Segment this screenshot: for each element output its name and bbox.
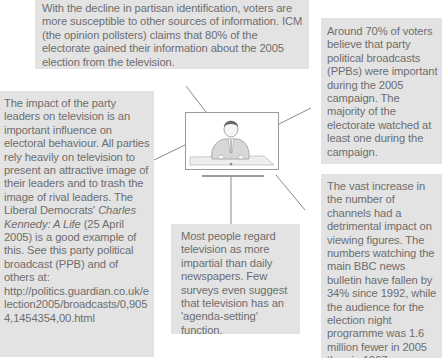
info-box-ppb-importance: Around 70% of voters believe that party … (321, 18, 442, 164)
info-text: Most people regard television as more im… (181, 230, 296, 337)
info-box-party-leaders: The impact of the party leaders on telev… (0, 91, 154, 357)
info-text: With the decline in partisan identificat… (42, 2, 303, 69)
tv-stand (200, 170, 266, 180)
info-box-channel-increase: The vast increase in the number of chann… (321, 174, 442, 358)
url-link[interactable]: http://politics.guardian.co.uk/election2… (4, 285, 149, 324)
info-text: The impact of the party leaders on telev… (4, 97, 150, 325)
info-text-part: The impact of the party leaders on telev… (4, 97, 149, 216)
presenter-illustration (186, 113, 277, 168)
television-presenter-icon (185, 112, 279, 170)
info-text: The vast increase in the number of chann… (327, 180, 438, 358)
info-box-impartiality: Most people regard television as more im… (171, 224, 300, 334)
info-box-partisan-decline: With the decline in partisan identificat… (35, 0, 309, 69)
info-text: Around 70% of voters believe that party … (327, 25, 438, 159)
